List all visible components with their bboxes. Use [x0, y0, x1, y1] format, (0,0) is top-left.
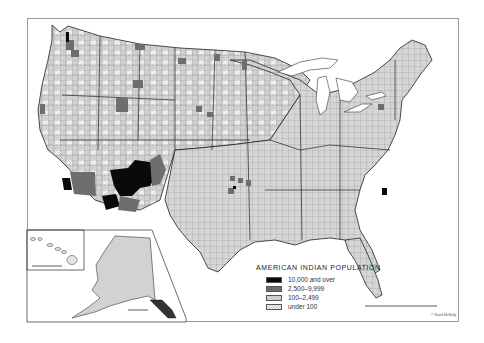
legend-label: 2,500–9,999 [288, 285, 324, 292]
legend-label: 100–2,499 [288, 294, 319, 301]
legend-title: AMERICAN INDIAN POPULATION [256, 264, 396, 271]
copyright-credit: © Rand McNally [431, 313, 456, 317]
legend-swatch-light-gray [266, 295, 282, 301]
legend-item-2500-9999: 2,500–9,999 [266, 284, 396, 293]
legend-swatch-black [266, 277, 282, 283]
us-map [0, 0, 484, 343]
legend-label: under 100 [288, 303, 317, 310]
legend: AMERICAN INDIAN POPULATION 10,000 and ov… [256, 264, 396, 311]
legend-item-100-2499: 100–2,499 [266, 293, 396, 302]
legend-label: 10,000 and over [288, 276, 335, 283]
legend-item-under-100: under 100 [266, 302, 396, 311]
legend-item-10000-and-over: 10,000 and over [266, 275, 396, 284]
legend-swatch-dark-gray [266, 286, 282, 292]
legend-swatch-hatched [266, 304, 282, 310]
